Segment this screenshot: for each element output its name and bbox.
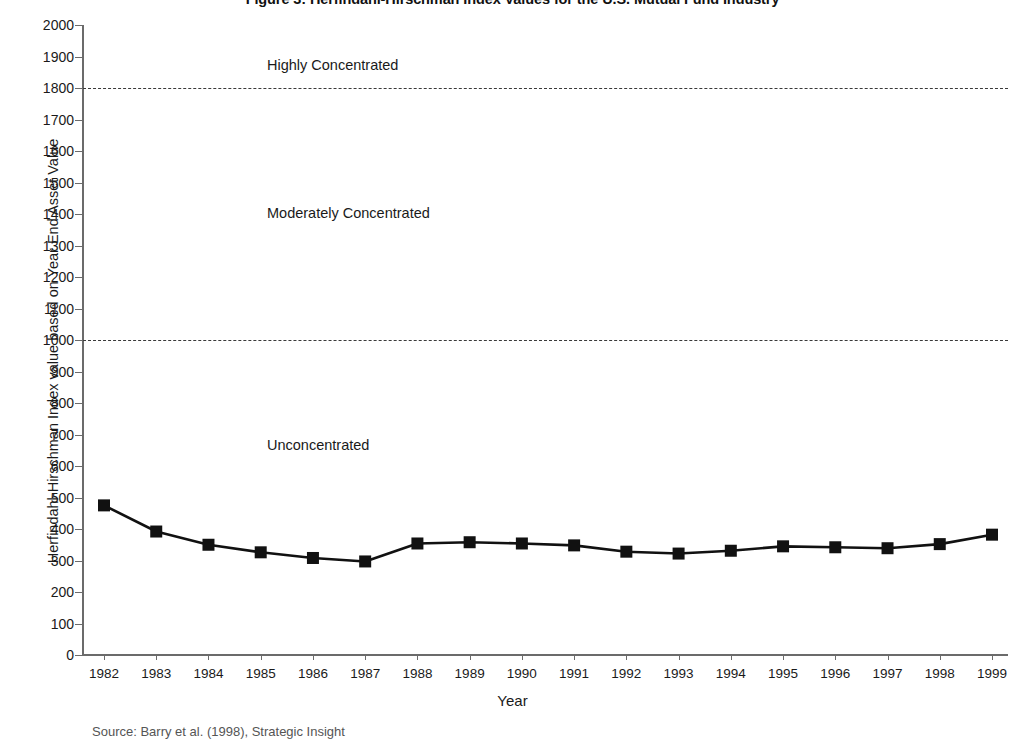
x-axis-tick-label: 1986 xyxy=(283,666,343,681)
x-axis-tick-label: 1997 xyxy=(858,666,918,681)
x-axis-tick-label: 1985 xyxy=(231,666,291,681)
x-axis-tick xyxy=(208,654,209,660)
data-point-marker: 1982: 475 xyxy=(98,499,110,511)
data-point-marker: 1994: 331 xyxy=(725,545,737,557)
data-point-marker: 1991: 348 xyxy=(568,539,580,551)
x-axis-tick xyxy=(626,654,627,660)
x-axis-tick xyxy=(835,654,836,660)
x-axis-tick xyxy=(522,654,523,660)
y-axis-tick-label: 900 xyxy=(14,365,74,379)
x-axis-tick xyxy=(940,654,941,660)
x-axis-tick-label: 1984 xyxy=(178,666,238,681)
y-axis-tick xyxy=(75,372,82,373)
data-point-marker: 1993: 322 xyxy=(673,548,685,560)
x-axis-tick-label: 1988 xyxy=(387,666,447,681)
x-axis-tick xyxy=(992,654,993,660)
y-axis-tick xyxy=(75,529,82,530)
y-axis-tick xyxy=(75,120,82,121)
y-axis-tick xyxy=(75,466,82,467)
y-axis-tick xyxy=(75,498,82,499)
y-axis-tick-label: 100 xyxy=(14,617,74,631)
y-axis-tick xyxy=(75,435,82,436)
y-axis-tick xyxy=(75,624,82,625)
data-point-marker: 1985: 326 xyxy=(255,546,267,558)
x-axis-tick-label: 1991 xyxy=(544,666,604,681)
x-axis-tick xyxy=(313,654,314,660)
data-point-marker: 1992: 328 xyxy=(620,546,632,558)
y-axis-tick-label: 1600 xyxy=(14,144,74,158)
y-axis-tick xyxy=(75,655,82,656)
y-axis-tick-label: 600 xyxy=(14,459,74,473)
x-axis-tick xyxy=(888,654,889,660)
y-axis-tick xyxy=(75,246,82,247)
data-point-marker: 1987: 297 xyxy=(359,555,371,567)
x-axis-tick-label: 1999 xyxy=(962,666,1022,681)
y-axis-tick-labels: 0100200300400500600700800900100011001200… xyxy=(8,25,74,655)
y-axis-tick xyxy=(75,151,82,152)
x-axis-tick xyxy=(679,654,680,660)
y-axis-tick-label: 2000 xyxy=(14,18,74,32)
x-axis-title: Year xyxy=(0,692,1025,709)
y-axis-tick-label: 1800 xyxy=(14,81,74,95)
data-point-marker: 1984: 350 xyxy=(202,539,214,551)
data-point-marker: 1988: 354 xyxy=(411,537,423,549)
y-axis-tick xyxy=(75,214,82,215)
y-axis-tick-label: 1500 xyxy=(14,176,74,190)
source-note: Source: Barry et al. (1998), Strategic I… xyxy=(92,724,345,739)
y-axis-tick xyxy=(75,277,82,278)
data-point-marker: 1998: 352 xyxy=(934,538,946,550)
y-axis-tick xyxy=(75,592,82,593)
data-point-marker: 1989: 358 xyxy=(464,536,476,548)
x-axis-tick-label: 1996 xyxy=(805,666,865,681)
y-axis-tick-label: 1200 xyxy=(14,270,74,284)
y-axis-tick-label: 500 xyxy=(14,491,74,505)
y-axis-tick-label: 700 xyxy=(14,428,74,442)
x-axis-tick-label: 1982 xyxy=(74,666,134,681)
y-axis-tick xyxy=(75,561,82,562)
x-axis-tick xyxy=(261,654,262,660)
y-axis-tick-label: 400 xyxy=(14,522,74,536)
x-axis-tick-label: 1989 xyxy=(440,666,500,681)
y-axis-tick-label: 0 xyxy=(14,648,74,662)
x-axis-tick-label: 1994 xyxy=(701,666,761,681)
data-point-marker: 1996: 342 xyxy=(829,541,841,553)
x-axis-tick-label: 1992 xyxy=(596,666,656,681)
y-axis-tick xyxy=(75,403,82,404)
chart-title: Figure 3: Herfindahl-Hirschman Index Val… xyxy=(0,0,1025,7)
y-axis-tick-label: 1300 xyxy=(14,239,74,253)
y-axis-tick xyxy=(75,57,82,58)
plot-area: 0100200300400500600700800900100011001200… xyxy=(82,25,1008,655)
y-axis-tick-label: 1900 xyxy=(14,50,74,64)
y-axis-tick-label: 1400 xyxy=(14,207,74,221)
data-point-marker: 1999: 382 xyxy=(986,529,998,541)
y-axis-tick xyxy=(75,183,82,184)
y-axis-tick-label: 800 xyxy=(14,396,74,410)
x-axis-tick-label: 1995 xyxy=(753,666,813,681)
x-axis-tick xyxy=(574,654,575,660)
y-axis-tick-label: 1100 xyxy=(14,302,74,316)
x-axis-tick xyxy=(104,654,105,660)
y-axis-tick xyxy=(75,88,82,89)
y-axis-tick xyxy=(75,340,82,341)
y-axis-tick-label: 1700 xyxy=(14,113,74,127)
x-axis-tick xyxy=(470,654,471,660)
x-axis-tick xyxy=(365,654,366,660)
x-axis-tick-label: 1983 xyxy=(126,666,186,681)
y-axis-tick-label: 1000 xyxy=(14,333,74,347)
y-axis-tick-label: 300 xyxy=(14,554,74,568)
series-polyline xyxy=(104,505,992,561)
y-axis-tick-label: 200 xyxy=(14,585,74,599)
x-axis-tick xyxy=(731,654,732,660)
data-point-marker: 1983: 392 xyxy=(150,526,162,538)
data-point-marker: 1986: 308 xyxy=(307,552,319,564)
data-series-line: 1982: 4751983: 3921984: 3501985: 3261986… xyxy=(82,25,1008,655)
x-axis-tick xyxy=(156,654,157,660)
y-axis-tick xyxy=(75,25,82,26)
x-axis-tick-label: 1998 xyxy=(910,666,970,681)
x-axis-tick-label: 1990 xyxy=(492,666,552,681)
y-axis-tick xyxy=(75,309,82,310)
data-point-marker: 1997: 339 xyxy=(882,542,894,554)
x-axis-tick-label: 1993 xyxy=(649,666,709,681)
data-point-marker: 1990: 354 xyxy=(516,537,528,549)
